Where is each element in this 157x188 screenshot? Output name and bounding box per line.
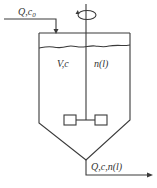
volume-concentration-label: V,c <box>57 58 69 69</box>
outlet-label: Q,c,n(l) <box>91 161 123 173</box>
outlet-stream: Q,c,n(l) <box>86 160 153 178</box>
inlet-label: Q,c0 <box>18 6 36 19</box>
tank-vessel <box>39 33 130 160</box>
stirred-tank-diagram: Q,c0 V,c n(l) Q,c,n(l) <box>0 0 157 188</box>
liquid-surface <box>39 45 130 48</box>
outlet-arrow-icon <box>147 173 153 178</box>
impeller-blade-left <box>64 115 76 125</box>
tank-outline <box>39 33 130 160</box>
inlet-line <box>4 19 56 30</box>
inlet-stream: Q,c0 <box>4 6 59 34</box>
distribution-label: n(l) <box>94 58 109 70</box>
impeller-blade-right <box>95 115 107 125</box>
